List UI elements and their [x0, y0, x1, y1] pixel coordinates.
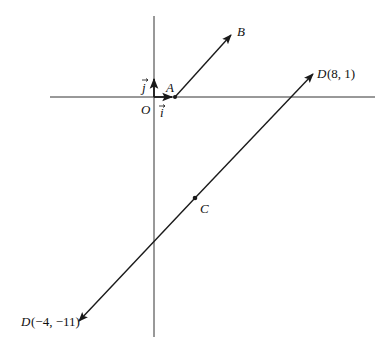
- point-a: [173, 95, 177, 99]
- label-d-lower: D (−4, −11): [20, 314, 80, 329]
- label-a: A: [165, 80, 174, 95]
- svg-text:(8, 1): (8, 1): [327, 66, 355, 81]
- label-d-upper: D (8, 1): [316, 66, 355, 81]
- label-unit-i: i: [159, 105, 165, 121]
- label-b: B: [237, 24, 245, 39]
- label-origin: O: [141, 102, 151, 117]
- vector-cd-upper: [195, 74, 313, 198]
- label-c: C: [200, 201, 209, 216]
- point-c: [193, 196, 198, 201]
- svg-text:D: D: [20, 314, 31, 329]
- label-unit-j: j: [140, 79, 148, 96]
- vector-ab: [175, 35, 231, 97]
- vector-cd-lower: [79, 198, 195, 321]
- svg-text:j: j: [140, 80, 146, 95]
- svg-text:D: D: [316, 66, 327, 81]
- vector-diagram: O i j A B C D (8, 1) D (−4, −11): [0, 0, 392, 350]
- svg-text:(−4, −11): (−4, −11): [31, 314, 80, 329]
